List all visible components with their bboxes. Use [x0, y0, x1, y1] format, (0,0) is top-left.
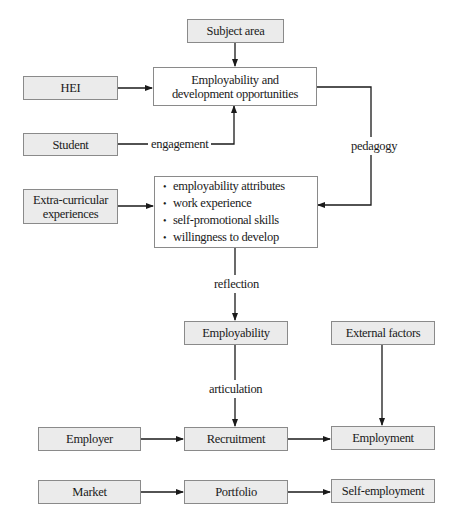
edge-label-articulation: articulation [207, 380, 264, 398]
node-employment-label: Employment [352, 431, 414, 445]
node-market: Market [38, 480, 141, 504]
node-external-factors-label: External factors [346, 326, 421, 340]
node-employability-label: Employability [202, 326, 270, 340]
node-recruitment-label: Recruitment [207, 432, 266, 446]
node-hei: HEI [23, 76, 118, 100]
node-market-label: Market [72, 485, 106, 499]
node-employment: Employment [331, 426, 435, 450]
node-self-employment: Self-employment [331, 479, 435, 503]
node-external-factors: External factors [331, 321, 435, 345]
node-employability-opportunities: Employability and development opportunit… [153, 67, 317, 106]
node-employer: Employer [38, 427, 141, 451]
attributes-list: employability attributes work experience… [155, 178, 317, 246]
attribute-item: willingness to develop [163, 229, 317, 246]
edge-label-reflection: reflection [212, 275, 261, 293]
edge-label-pedagogy: pedagogy [350, 137, 398, 155]
node-portfolio-label: Portfolio [215, 485, 257, 499]
attribute-item: employability attributes [163, 178, 317, 195]
node-employability: Employability [184, 321, 288, 345]
node-employer-label: Employer [66, 432, 113, 446]
attribute-item: self-promotional skills [163, 212, 317, 229]
node-student: Student [23, 133, 118, 156]
node-self-employment-label: Self-employment [342, 484, 424, 498]
node-attributes: employability attributes work experience… [154, 176, 318, 248]
node-subject-area-label: Subject area [207, 24, 265, 38]
node-subject-area: Subject area [187, 19, 284, 43]
node-student-label: Student [52, 138, 88, 152]
attribute-item: work experience [163, 195, 317, 212]
edge-label-engagement: engagement [148, 137, 211, 151]
node-employability-opportunities-label: Employability and development opportunit… [160, 73, 310, 101]
node-extra-curricular: Extra-curricular experiences [23, 189, 118, 224]
node-recruitment: Recruitment [184, 427, 288, 451]
node-portfolio: Portfolio [184, 480, 288, 504]
node-hei-label: HEI [61, 81, 81, 95]
node-extra-curricular-label: Extra-curricular experiences [30, 193, 111, 221]
